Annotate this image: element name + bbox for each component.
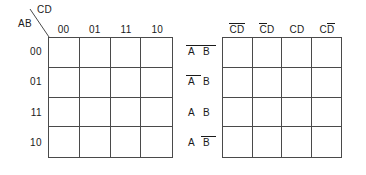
left-kmap-row-headers: 00 01 11 10 (14, 37, 48, 158)
kmap-cell[interactable] (49, 38, 80, 68)
kmap-cell[interactable] (312, 127, 342, 157)
corner-row-variable: AB (18, 18, 32, 29)
kmap-cell[interactable] (111, 127, 142, 157)
kmap-cell[interactable] (111, 68, 142, 98)
kmap-cell[interactable] (80, 68, 111, 98)
kmap-cell[interactable] (141, 68, 172, 98)
kmap-cell[interactable] (80, 38, 111, 68)
kmap-cell[interactable] (141, 98, 172, 128)
right-kmap-row-headers: AB AB AB AB (186, 37, 222, 158)
kmap-figure: CD AB 00 01 11 10 00 01 11 10 (0, 0, 366, 175)
corner-column-variable: CD (37, 4, 52, 15)
kmap-cell[interactable] (141, 127, 172, 157)
kmap-cell[interactable] (49, 68, 80, 98)
kmap-cell[interactable] (141, 38, 172, 68)
kmap-cell[interactable] (223, 127, 253, 157)
right-column-header-1: CD (252, 24, 282, 36)
left-kmap-grid (48, 37, 173, 158)
right-column-header-0: CD (222, 24, 252, 36)
right-kmap-column-headers: CD CD CD CD (222, 20, 342, 36)
right-row-header-1: AB (186, 67, 222, 97)
kmap-cell[interactable] (223, 68, 253, 98)
kmap-cell[interactable] (282, 68, 312, 98)
right-row-header-3: AB (186, 128, 222, 158)
left-kmap-column-headers: 00 01 11 10 (48, 20, 173, 36)
left-row-header-2: 11 (14, 98, 48, 128)
kmap-cell[interactable] (253, 127, 283, 157)
left-row-header-0: 00 (14, 37, 48, 67)
kmap-cell[interactable] (253, 98, 283, 128)
kmap-cell[interactable] (253, 68, 283, 98)
kmap-cell[interactable] (49, 98, 80, 128)
kmap-cell[interactable] (282, 98, 312, 128)
left-row-header-1: 01 (14, 67, 48, 97)
kmap-cell[interactable] (312, 38, 342, 68)
kmap-cell[interactable] (223, 38, 253, 68)
kmap-cell[interactable] (111, 98, 142, 128)
right-row-header-0: AB (186, 37, 222, 67)
kmap-cell[interactable] (223, 98, 253, 128)
right-row-header-2: AB (186, 98, 222, 128)
kmap-cell[interactable] (282, 127, 312, 157)
left-column-header-0: 00 (48, 24, 79, 36)
kmap-cell[interactable] (111, 38, 142, 68)
kmap-cell[interactable] (312, 68, 342, 98)
left-row-header-3: 10 (14, 128, 48, 158)
kmap-cell[interactable] (49, 127, 80, 157)
right-column-header-2: CD (282, 24, 312, 36)
kmap-cell[interactable] (80, 98, 111, 128)
left-column-header-2: 11 (111, 24, 142, 36)
kmap-cell[interactable] (312, 98, 342, 128)
left-column-header-3: 10 (142, 24, 173, 36)
kmap-cell[interactable] (80, 127, 111, 157)
right-kmap-grid (222, 37, 342, 158)
right-column-header-3: CD (312, 24, 342, 36)
left-column-header-1: 01 (79, 24, 110, 36)
kmap-cell[interactable] (282, 38, 312, 68)
kmap-cell[interactable] (253, 38, 283, 68)
